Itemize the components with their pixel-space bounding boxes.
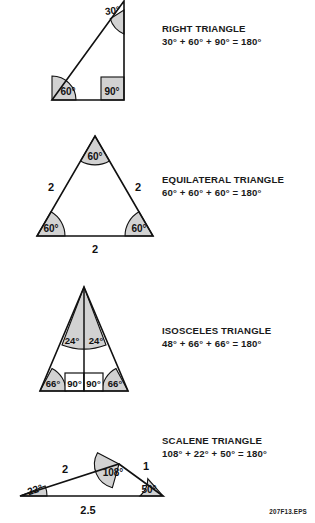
equilateral-left-base-angle-label: 60° xyxy=(43,223,58,234)
right-triangle-caption-sum: 30° + 60° + 90° = 180° xyxy=(162,36,261,49)
isosceles-foot-right-angle-label: 90° xyxy=(86,378,101,389)
figure-scalene-triangle: 108° 22° 50° 2 1 2.5 SCALENE TRIANGLE 10… xyxy=(0,430,315,523)
figure-equilateral-triangle: 60° 60° 60° 2 2 2 EQUILATERAL TRIANGLE 6… xyxy=(0,128,315,264)
scalene-left-side-label: 2 xyxy=(62,463,68,475)
figure-source-code: 207F13.EPS xyxy=(269,508,307,515)
isosceles-triangle-caption-sum: 48° + 66° + 66° = 180° xyxy=(162,338,271,351)
isosceles-right-base-angle-label: 66° xyxy=(108,378,123,389)
equilateral-triangle-caption-sum: 60° + 60° + 60° = 180° xyxy=(162,187,284,200)
isosceles-triangle-diagram: 24° 24° 90° 90° 66° 66° xyxy=(0,283,170,411)
isosceles-apex-right-angle-label: 24° xyxy=(89,335,104,346)
right-triangle-caption-title: RIGHT TRIANGLE xyxy=(162,23,261,36)
scalene-triangle-caption-title: SCALENE TRIANGLE xyxy=(162,435,267,448)
scalene-apex-angle-label: 108° xyxy=(103,467,124,478)
scalene-right-side-label: 1 xyxy=(143,460,149,472)
equilateral-right-side-label: 2 xyxy=(135,181,141,193)
scalene-right-base-angle-label: 50° xyxy=(141,484,156,495)
scalene-triangle-caption-sum: 108° + 22° + 50° = 180° xyxy=(162,448,267,461)
isosceles-triangle-caption-title: ISOSCELES TRIANGLE xyxy=(162,325,271,338)
figure-isosceles-triangle: 24° 24° 90° 90° 66° 66° ISOSCELES TRIANG… xyxy=(0,283,315,411)
right-triangle-diagram: 30° 60° 90° xyxy=(0,0,170,120)
isosceles-foot-left-angle-label: 90° xyxy=(67,378,82,389)
scalene-triangle-caption: SCALENE TRIANGLE 108° + 22° + 50° = 180° xyxy=(162,435,267,460)
right-right-base-angle-label: 90° xyxy=(104,86,119,97)
isosceles-left-base-angle-label: 66° xyxy=(46,378,61,389)
right-left-base-angle-label: 60° xyxy=(60,86,75,97)
equilateral-apex-angle-label: 60° xyxy=(87,151,102,162)
scalene-bottom-side-label: 2.5 xyxy=(80,504,95,516)
equilateral-left-side-label: 2 xyxy=(48,181,54,193)
equilateral-bottom-side-label: 2 xyxy=(92,243,98,255)
figure-right-triangle: 30° 60° 90° RIGHT TRIANGLE 30° + 60° + 9… xyxy=(0,0,315,120)
equilateral-triangle-diagram: 60° 60° 60° 2 2 2 xyxy=(0,128,170,264)
triangle-types-figure-sheet: 30° 60° 90° RIGHT TRIANGLE 30° + 60° + 9… xyxy=(0,0,315,523)
isosceles-apex-left-angle-label: 24° xyxy=(65,335,80,346)
right-triangle-caption: RIGHT TRIANGLE 30° + 60° + 90° = 180° xyxy=(162,23,261,48)
right-apex-angle-label: 30° xyxy=(104,4,121,17)
equilateral-triangle-caption: EQUILATERAL TRIANGLE 60° + 60° + 60° = 1… xyxy=(162,174,284,199)
equilateral-triangle-caption-title: EQUILATERAL TRIANGLE xyxy=(162,174,284,187)
equilateral-right-base-angle-label: 60° xyxy=(131,223,146,234)
isosceles-triangle-caption: ISOSCELES TRIANGLE 48° + 66° + 66° = 180… xyxy=(162,325,271,350)
